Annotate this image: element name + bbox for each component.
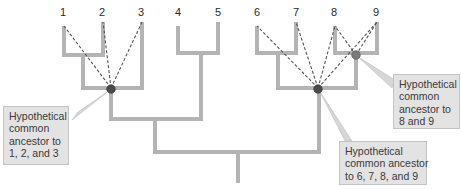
ancestor-node-8-9 (352, 51, 361, 60)
callout-pointer-6789 (319, 90, 352, 141)
callout-line: Hypothetical (345, 145, 422, 157)
callout-line: common (399, 90, 455, 102)
dashed-line-123-to-3 (111, 22, 142, 88)
callout-line: 8 and 9 (399, 115, 455, 127)
taxon-label-8: 8 (331, 6, 337, 18)
taxon-label-2: 2 (99, 6, 105, 18)
taxon-label-4: 4 (175, 6, 181, 18)
callout-line: common ancestor (345, 157, 422, 169)
callout-ancestor-6-7-8-9: Hypothetical common ancestor to 6, 7, 8,… (339, 141, 427, 185)
branch-4-5 (178, 22, 218, 53)
taxon-label-9: 9 (373, 6, 379, 18)
dashed-line-6789-to-7 (296, 22, 318, 88)
ancestor-node-6-7-8-9 (314, 85, 323, 94)
taxon-label-5: 5 (215, 6, 221, 18)
callout-line: to 6, 7, 8, and 9 (345, 170, 422, 182)
ancestor-node-1-2-3 (107, 85, 116, 94)
callout-line: 1, 2, and 3 (9, 147, 64, 159)
callout-line: ancestor to (9, 135, 64, 147)
callout-pointer-123 (72, 90, 110, 120)
callout-ancestor-1-2-3: Hypothetical common ancestor to 1, 2, an… (3, 106, 69, 165)
branch-67-89 (278, 53, 356, 88)
callout-pointer-89 (357, 56, 395, 88)
taxon-label-6: 6 (254, 6, 260, 18)
dashed-line-6789-to-6 (257, 26, 318, 88)
callout-line: common (9, 122, 64, 134)
callout-ancestor-8-9: Hypothetical common ancestor to 8 and 9 (393, 74, 460, 129)
dashed-line-89-to-9 (356, 22, 377, 55)
callout-line: Hypothetical (399, 78, 455, 90)
branch-8-9 (335, 22, 377, 53)
taxon-label-1: 1 (60, 6, 66, 18)
callout-line: Hypothetical (9, 110, 64, 122)
branch-1-2 (64, 22, 103, 55)
taxon-label-7: 7 (293, 6, 299, 18)
taxon-label-3: 3 (138, 6, 144, 18)
callout-line: ancestor to (399, 103, 455, 115)
branch-6-7 (257, 22, 296, 53)
dashed-line-89-to-8 (335, 26, 356, 55)
